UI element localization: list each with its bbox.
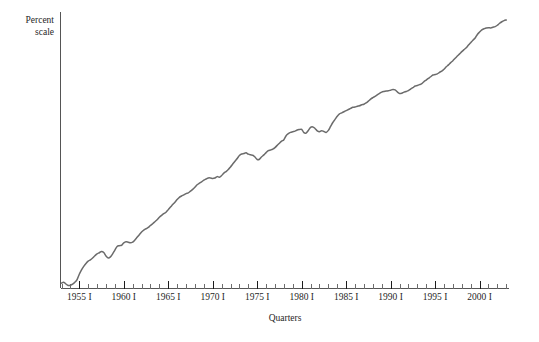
x-axis-tick-label: 1960 I [111,292,136,302]
x-axis-ticks [63,281,507,289]
x-axis-label: Quarters [269,313,302,323]
x-axis-tick-label: 1965 I [156,292,181,302]
x-axis-tick-label: 1990 I [378,292,403,302]
x-axis-tick-label: 2000 I [467,292,492,302]
x-axis-tick-label: 1970 I [200,292,225,302]
x-axis-tick-label: 1980 I [289,292,314,302]
x-axis-tick-label: 1975 I [245,292,270,302]
chart-figure: Percent scale 1955 I1960 I1965 I1970 I19… [0,0,539,342]
line-chart-plot: 1955 I1960 I1965 I1970 I1975 I1980 I1985… [0,0,539,342]
x-axis-tick-label: 1995 I [423,292,448,302]
data-series-line [62,20,507,286]
x-axis-tick-labels: 1955 I1960 I1965 I1970 I1975 I1980 I1985… [67,292,492,302]
x-axis-tick-label: 1985 I [334,292,359,302]
x-axis-tick-label: 1955 I [67,292,92,302]
